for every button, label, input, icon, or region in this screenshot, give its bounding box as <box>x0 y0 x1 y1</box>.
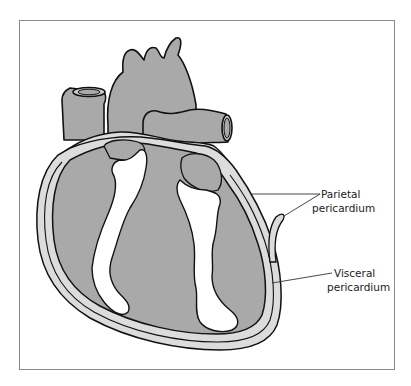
parietal-label-line1: Parietal <box>321 187 375 201</box>
parietal-label-line2: pericardium <box>312 201 375 215</box>
visceral-leader <box>272 273 332 283</box>
visceral-label-line1: Visceral <box>334 266 390 280</box>
great-vessels <box>62 38 232 144</box>
parietal-pericardium-label: Parietal pericardium <box>321 187 375 215</box>
visceral-label-line2: pericardium <box>327 280 390 294</box>
visceral-pericardium-label: Visceral pericardium <box>334 266 390 294</box>
